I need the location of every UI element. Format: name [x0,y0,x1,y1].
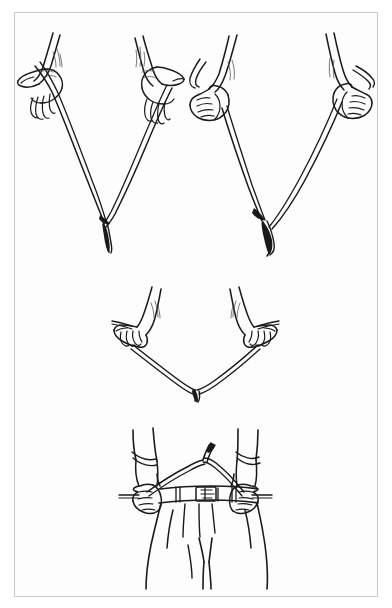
dowsing-rod-illustration [0,0,392,608]
panel-bottom [119,428,272,589]
panel-top-left [18,33,184,253]
hand-top-left-left [18,33,63,119]
belt-buckle [196,487,216,501]
hand-middle-left [114,287,161,347]
panel-middle [112,287,279,402]
trousers [146,503,267,589]
hand-top-left-right [135,36,184,124]
hand-middle-right [230,287,277,347]
rod-middle [112,321,279,402]
rod-top-left [35,62,172,253]
waist [157,474,234,486]
hand-bottom-left [133,484,162,513]
panel-top-right [190,33,375,256]
hand-top-right-right [326,33,374,118]
hand-top-right-left [190,35,237,120]
illustration-page [0,0,392,608]
rod-top-right [222,99,342,256]
left-forearm [133,428,158,486]
